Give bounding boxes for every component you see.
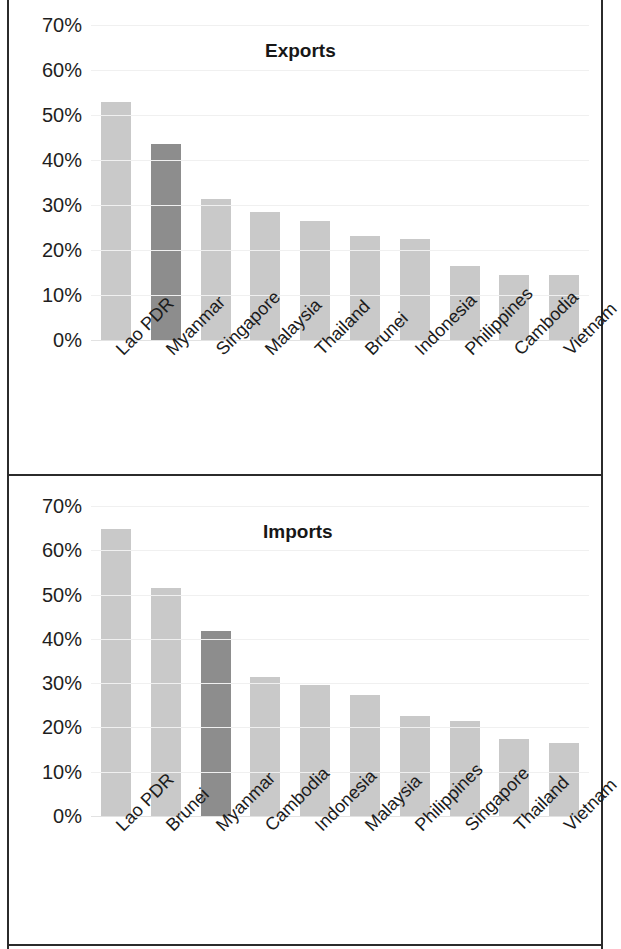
y-axis-tick-label: 50% [42,104,82,127]
y-axis-tick-label: 0% [53,805,82,828]
y-axis-tick-label: 10% [42,284,82,307]
gridline [91,683,589,684]
y-axis-tick-label: 60% [42,539,82,562]
gridline [91,639,589,640]
gridline [91,506,589,507]
y-axis-tick-label: 30% [42,672,82,695]
y-axis-tick-label: 40% [42,149,82,172]
y-axis-tick-label: 40% [42,627,82,650]
x-axis-labels-imports: Lao PDRBruneiMyanmarCambodiaIndonesiaMal… [91,821,589,941]
y-axis-tick-label: 10% [42,760,82,783]
y-axis-tick-label: 20% [42,716,82,739]
panel-exports: Exports 70%60%50%40%30%20%10%0% Lao PDRM… [9,0,601,474]
y-axis-tick-label: 0% [53,329,82,352]
gridline [91,550,589,551]
y-axis-tick-label: 70% [42,14,82,37]
panel-imports: Imports 70%60%50%40%30%20%10%0% Lao PDRB… [9,476,601,944]
y-axis-tick-label: 70% [42,495,82,518]
bar [101,102,131,341]
y-axis-tick-label: 60% [42,59,82,82]
frame-border-bottom [7,944,603,946]
gridline [91,595,589,596]
bar [201,631,231,816]
gridline [91,115,589,116]
gridline [91,25,589,26]
gridline [91,205,589,206]
gridline [91,727,589,728]
gridline [91,160,589,161]
y-axis-tick-label: 20% [42,239,82,262]
gridline [91,70,589,71]
gridline [91,250,589,251]
bar [101,529,131,816]
y-axis-tick-label: 30% [42,194,82,217]
y-axis-tick-label: 50% [42,583,82,606]
x-axis-labels-exports: Lao PDRMyanmarSingaporeMalaysiaThailandB… [91,345,589,465]
